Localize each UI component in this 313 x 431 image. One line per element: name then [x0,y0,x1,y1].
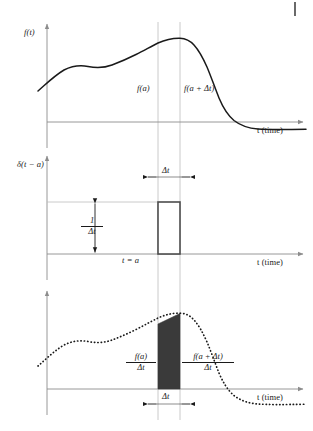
impulse-pulse-rect [158,202,180,254]
bottom-shaded-strip [158,314,180,390]
top-curve [38,38,306,129]
bottom-x-axis-label: t (time) [257,393,283,402]
figure-svg [0,0,313,431]
f-of-a-annotation: f(a) [137,84,150,93]
middle-delta-t-label: Δt [162,166,170,175]
figure-container: f(t) f(a) f(a + Δt) t (time) δ(t − a) 1 … [0,0,313,431]
right-scaled-fraction: f(a + Δt) Δt [182,352,234,372]
left-scaled-fraction: f(a) Δt [126,352,156,372]
top-x-axis-label: t (time) [257,126,283,135]
pulse-height-label: 1 Δt [81,216,103,236]
middle-y-axis-label: δ(t − a) [17,160,44,169]
bottom-delta-t-label: Δt [162,392,170,401]
left-fraction-denominator: Δt [126,363,156,373]
t-equals-a-label: t = a [122,256,139,265]
right-fraction-denominator: Δt [182,363,234,373]
pulse-height-denominator: Δt [81,227,103,237]
f-of-a-plus-delta-t-annotation: f(a + Δt) [184,84,215,93]
top-y-axis-label: f(t) [24,28,35,37]
left-fraction-numerator: f(a) [126,352,156,363]
pulse-height-numerator: 1 [81,216,103,227]
middle-x-axis-label: t (time) [257,258,283,267]
right-fraction-numerator: f(a + Δt) [182,352,234,363]
